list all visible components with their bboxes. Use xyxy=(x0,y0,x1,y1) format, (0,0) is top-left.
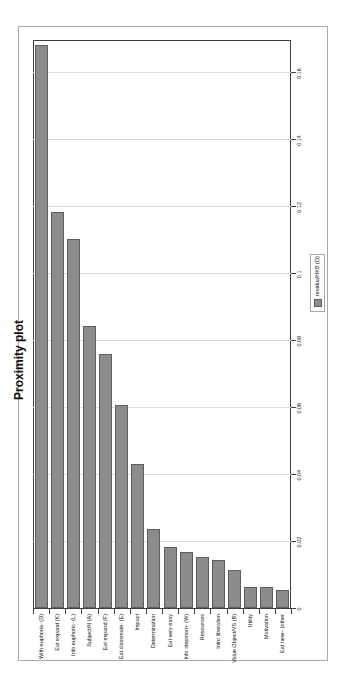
category-tick xyxy=(259,609,260,614)
bar xyxy=(196,557,209,608)
category-tick xyxy=(98,609,99,614)
category-label: Utility xyxy=(247,614,254,687)
category-label: With euphoria- (D) xyxy=(38,614,45,687)
category-label: Determination xyxy=(150,614,157,687)
value-tick-label: 0.08 xyxy=(296,329,303,353)
category-label: Eat classmate- (E) xyxy=(118,614,125,687)
category-label: Value Object/VS (B) xyxy=(231,614,238,687)
bar xyxy=(180,552,193,608)
bar xyxy=(35,45,48,608)
legend-swatch xyxy=(314,299,322,307)
gridline xyxy=(33,72,291,73)
chart-canvas: Proximity plot residualHKB (D) 00.020.04… xyxy=(0,0,340,687)
value-tick-label: 0.04 xyxy=(296,463,303,487)
value-tick-label: 0 xyxy=(296,597,303,621)
category-label: Intro liberation xyxy=(215,614,222,687)
gridline xyxy=(33,139,291,140)
category-tick xyxy=(210,609,211,614)
bar xyxy=(164,547,177,608)
bar xyxy=(212,560,225,608)
value-tick-label: 0.16 xyxy=(296,61,303,85)
category-label: Impact xyxy=(134,614,141,687)
bar xyxy=(51,212,64,608)
bar xyxy=(276,590,289,608)
category-label: Info stepmom- (W) xyxy=(183,614,190,687)
gridline xyxy=(33,206,291,207)
category-label: Eat expand (F) xyxy=(102,614,109,687)
category-label: Eat new~ (other xyxy=(279,614,286,687)
legend-label: residualHKB (D) xyxy=(314,256,321,296)
bar xyxy=(244,587,257,608)
category-label: Motivation xyxy=(263,614,270,687)
chart-title: Proximity plot xyxy=(11,260,27,460)
category-tick xyxy=(243,609,244,614)
bar xyxy=(147,529,160,608)
category-label: Eat very easy xyxy=(167,614,174,687)
category-tick xyxy=(275,609,276,614)
value-tick-label: 0.06 xyxy=(296,396,303,420)
bar xyxy=(228,570,241,608)
value-tick-label: 0.1 xyxy=(296,262,303,286)
value-tick-label: 0.12 xyxy=(296,195,303,219)
category-tick xyxy=(162,609,163,614)
bar xyxy=(260,587,273,608)
category-tick xyxy=(114,609,115,614)
category-tick xyxy=(178,609,179,614)
bar xyxy=(115,405,128,608)
category-label: Eat expand (K) xyxy=(54,614,61,687)
category-tick xyxy=(291,609,292,614)
rotated-chart: Proximity plot residualHKB (D) 00.020.04… xyxy=(0,0,340,687)
category-tick xyxy=(33,609,34,614)
category-tick xyxy=(65,609,66,614)
category-label: Resources xyxy=(199,614,206,687)
category-tick xyxy=(146,609,147,614)
bar xyxy=(67,239,80,608)
category-tick xyxy=(194,609,195,614)
value-tick-label: 0.02 xyxy=(296,530,303,554)
category-tick xyxy=(130,609,131,614)
category-label: Info euphoric- (L) xyxy=(70,614,77,687)
bar xyxy=(83,326,96,608)
category-tick xyxy=(227,609,228,614)
category-tick xyxy=(49,609,50,614)
category-tick xyxy=(81,609,82,614)
bar xyxy=(99,354,112,608)
legend: residualHKB (D) xyxy=(310,254,325,312)
value-tick-label: 0.14 xyxy=(296,128,303,152)
category-label: Subject/N (A) xyxy=(86,614,93,687)
bar xyxy=(131,464,144,608)
